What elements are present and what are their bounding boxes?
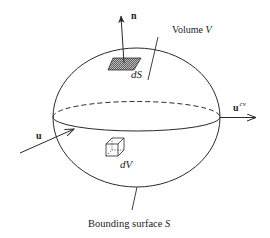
outflow-velocity-label: ucv — [233, 103, 246, 113]
inflow-velocity-label: u — [36, 131, 42, 141]
volume-leader-line — [148, 37, 158, 80]
normal-vector-label: n — [131, 11, 137, 21]
equator-front — [53, 117, 220, 131]
volume-element-label: dV — [120, 159, 132, 170]
equator-back-dashed — [53, 102, 220, 118]
bounding-surface-leader-line — [132, 187, 137, 210]
diagram-canvas — [0, 0, 270, 238]
bounding-surface-symbol: S — [165, 218, 170, 229]
volume-label: Volume V — [172, 25, 212, 35]
bounding-surface-word: Bounding surface — [88, 218, 165, 229]
normal-vector-arrow — [121, 16, 124, 63]
volume-element-cube — [106, 138, 124, 156]
outflow-velocity-superscript: cv — [240, 100, 246, 108]
control-volume-diagram: n dS Volume V ucv u dV Bounding surface … — [0, 0, 270, 238]
surface-element-label: dS — [131, 69, 142, 80]
bounding-surface-label: Bounding surface S — [88, 219, 170, 230]
inflow-velocity-arrow — [20, 129, 74, 153]
volume-label-symbol: V — [205, 24, 211, 35]
volume-label-word: Volume — [172, 24, 205, 35]
outflow-velocity-symbol: u — [233, 102, 239, 113]
